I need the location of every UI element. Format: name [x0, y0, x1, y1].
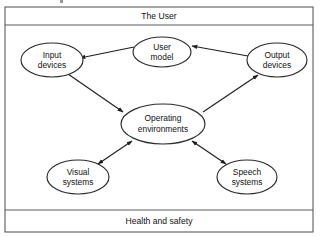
node-operating-environments[interactable]: Operating environments [121, 104, 205, 144]
operating-environments-label-line2: environments [138, 124, 188, 134]
diagram-screenshot: The User Health and safety Input devices… [0, 0, 322, 237]
node-output-devices[interactable]: Output devices [247, 43, 307, 77]
node-visual-systems[interactable]: Visual systems [47, 160, 109, 194]
input-devices-label-line2: devices [38, 60, 66, 70]
output-devices-label-line1: Output [264, 50, 290, 60]
user-model-label-line1: User [153, 42, 171, 52]
scan-artifact-speck [60, 0, 63, 3]
speech-systems-label-line1: Speech [233, 167, 262, 177]
node-input-devices[interactable]: Input devices [21, 43, 83, 77]
bottom-band-label: Health and safety [126, 216, 194, 226]
output-devices-label-line2: devices [263, 60, 291, 70]
visual-systems-label-line2: systems [63, 177, 94, 187]
top-band-label: The User [141, 11, 176, 21]
user-system-diagram: The User Health and safety Input devices… [0, 0, 322, 237]
operating-environments-label-line1: Operating [145, 113, 182, 123]
user-model-label-line2: model [151, 52, 174, 62]
visual-systems-label-line1: Visual [67, 167, 90, 177]
node-user-model[interactable]: User model [133, 37, 191, 67]
input-devices-label-line1: Input [43, 50, 62, 60]
node-speech-systems[interactable]: Speech systems [217, 160, 277, 194]
speech-systems-label-line2: systems [232, 177, 263, 187]
